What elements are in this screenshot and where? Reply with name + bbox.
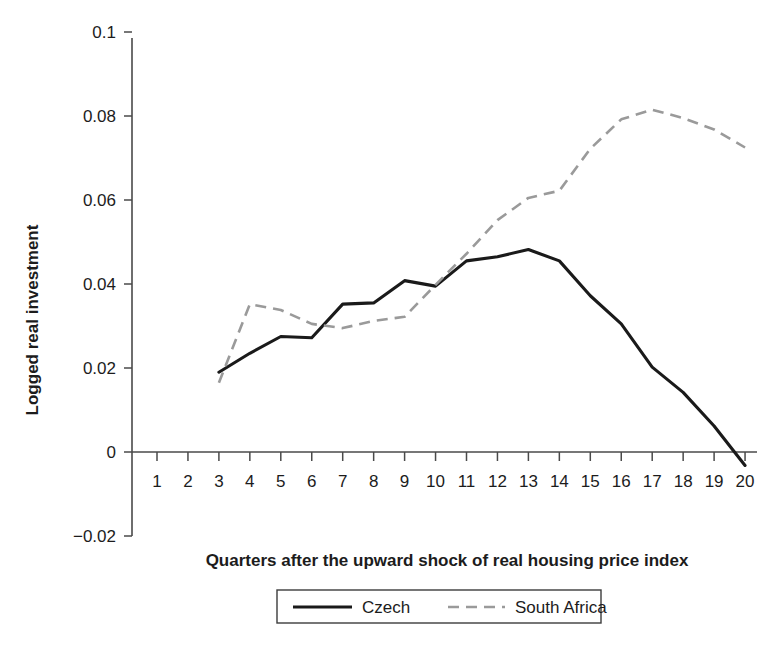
legend: Czech South Africa (277, 590, 607, 623)
x-tick-label: 4 (245, 472, 254, 491)
x-tick-label: 19 (705, 472, 724, 491)
x-tick-label: 13 (519, 472, 538, 491)
x-tick-label: 7 (338, 472, 347, 491)
y-axis-label: Logged real investment (23, 224, 42, 415)
x-tick-label: 16 (612, 472, 631, 491)
x-tick-label: 3 (214, 472, 223, 491)
x-tick-label: 1 (152, 472, 161, 491)
legend-label-czech: Czech (362, 598, 410, 617)
x-tick-label: 11 (458, 472, 476, 491)
y-tick-label: 0.08 (83, 107, 116, 126)
x-tick-label: 20 (736, 472, 755, 491)
y-tick-label: −0.02 (73, 527, 116, 546)
y-tick-label: 0.02 (83, 359, 116, 378)
x-tick-label: 18 (674, 472, 693, 491)
y-tick-label: 0.04 (83, 275, 116, 294)
y-tick-label: 0.06 (83, 191, 116, 210)
investment-response-chart: 0.10.080.060.040.020−0.02 12345678910111… (0, 0, 778, 648)
x-tick-label: 6 (307, 472, 316, 491)
x-tick-label: 10 (426, 472, 445, 491)
x-tick-label: 9 (400, 472, 409, 491)
x-tick-label: 2 (183, 472, 192, 491)
x-tick-label: 8 (369, 472, 378, 491)
y-tick-label: 0.1 (92, 23, 116, 42)
y-tick-label: 0 (107, 443, 116, 462)
x-tick-label: 12 (488, 472, 507, 491)
x-axis-label: Quarters after the upward shock of real … (206, 551, 689, 570)
legend-label-south-africa: South Africa (515, 598, 607, 617)
x-tick-label: 17 (643, 472, 662, 491)
x-tick-label: 15 (581, 472, 600, 491)
x-tick-label: 5 (276, 472, 285, 491)
x-tick-label: 14 (550, 472, 569, 491)
